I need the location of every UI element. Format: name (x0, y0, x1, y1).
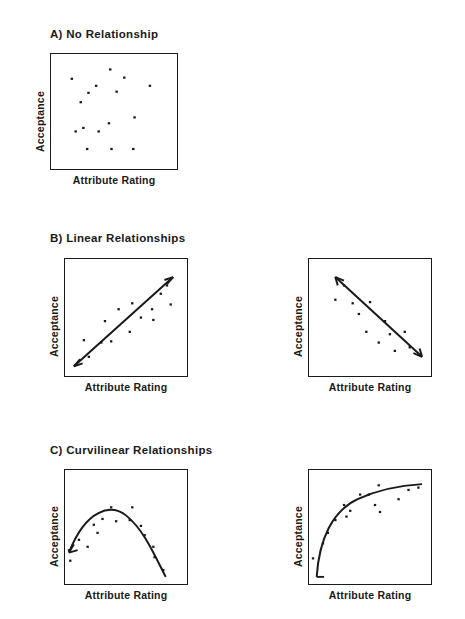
plot-c-left-x-axis-label: Attribute Rating (64, 589, 188, 601)
plot-a-points-layer (50, 53, 178, 170)
plot-b-right-y-axis-label: Acceptance (292, 296, 304, 357)
plot-c-right-y-axis-label: Acceptance (292, 506, 304, 567)
plot-b-left-x-axis-label: Attribute Rating (64, 381, 188, 393)
plot-a-y-axis-label: Acceptance (34, 91, 46, 152)
plot-c-right-data-layer (308, 469, 432, 585)
plot-b-left-positive-linear (64, 258, 188, 377)
plot-b-right-x-axis-label: Attribute Rating (308, 381, 432, 393)
plot-c-left-y-axis-label: Acceptance (48, 506, 60, 567)
scatter-points-b-right (334, 284, 411, 352)
panel-b-title: B) Linear Relationships (50, 232, 185, 244)
fit-line-b-right (335, 277, 422, 357)
plot-c-left-data-layer (64, 469, 188, 585)
plot-a-no-relationship (50, 53, 178, 170)
plot-c-left-inverted-u (64, 469, 188, 585)
plot-b-right-negative-linear (308, 258, 432, 377)
relationship-types-figure: A) No Relationship (0, 0, 465, 619)
plot-c-right-x-axis-label: Attribute Rating (308, 589, 432, 601)
plot-c-right-asymptotic (308, 469, 432, 585)
panel-a-title: A) No Relationship (50, 28, 158, 40)
plot-b-left-data-layer (64, 258, 188, 377)
fit-curve-c-left (69, 510, 166, 577)
fit-line-b-left (74, 277, 173, 366)
plot-a-x-axis-label: Attribute Rating (50, 174, 178, 186)
plot-b-right-data-layer (308, 258, 432, 377)
panel-c-title: C) Curvilinear Relationships (50, 444, 212, 456)
fit-curve-c-right (317, 484, 422, 577)
scatter-points-a (71, 68, 152, 150)
plot-b-left-y-axis-label: Acceptance (48, 296, 60, 357)
scatter-points-c-left (68, 506, 165, 571)
